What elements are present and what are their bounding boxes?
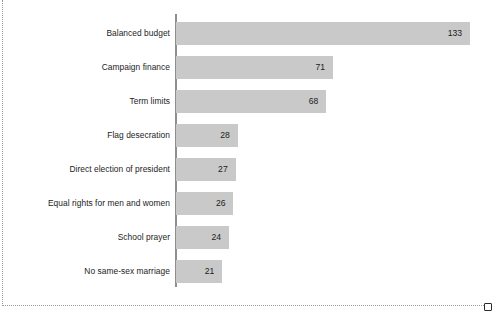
bar-row: School prayer24 xyxy=(0,226,497,249)
bar-container: 28 xyxy=(176,124,238,147)
bar-container: 133 xyxy=(176,22,470,45)
bar-container: 26 xyxy=(176,192,233,215)
bar-row: No same-sex marriage21 xyxy=(0,260,497,283)
category-label: Flag desecration xyxy=(0,124,170,147)
bar-container: 68 xyxy=(176,90,326,113)
bar[interactable] xyxy=(176,260,222,283)
bar-row: Balanced budget133 xyxy=(0,22,497,45)
bar-row: Term limits68 xyxy=(0,90,497,113)
category-label: Campaign finance xyxy=(0,56,170,79)
bar-value-label: 21 xyxy=(205,260,215,283)
category-label: School prayer xyxy=(0,226,170,249)
bar-row: Equal rights for men and women26 xyxy=(0,192,497,215)
bar-value-label: 68 xyxy=(309,90,319,113)
bar-row: Direct election of president27 xyxy=(0,158,497,181)
selection-border-bottom xyxy=(2,305,486,306)
category-label: Direct election of president xyxy=(0,158,170,181)
selection-border-left xyxy=(2,0,3,306)
bar-row: Campaign finance71 xyxy=(0,56,497,79)
bar-container: 24 xyxy=(176,226,229,249)
bar[interactable] xyxy=(176,226,229,249)
bar[interactable] xyxy=(176,90,326,113)
bar-value-label: 71 xyxy=(315,56,325,79)
bar-value-label: 133 xyxy=(448,22,462,45)
bar-value-label: 26 xyxy=(216,192,226,215)
bar[interactable] xyxy=(176,22,470,45)
bar[interactable] xyxy=(176,56,333,79)
bar-value-label: 28 xyxy=(220,124,230,147)
category-label: Term limits xyxy=(0,90,170,113)
bar-container: 71 xyxy=(176,56,333,79)
category-label: Balanced budget xyxy=(0,22,170,45)
category-label: Equal rights for men and women xyxy=(0,192,170,215)
bar-row: Flag desecration28 xyxy=(0,124,497,147)
bar-chart: Balanced budget133Campaign finance71Term… xyxy=(0,0,497,300)
chart-canvas: Balanced budget133Campaign finance71Term… xyxy=(0,0,497,317)
resize-handle-bottom-right-icon[interactable] xyxy=(484,303,492,311)
bar-value-label: 24 xyxy=(211,226,221,249)
bar-container: 27 xyxy=(176,158,236,181)
bar-value-label: 27 xyxy=(218,158,228,181)
category-label: No same-sex marriage xyxy=(0,260,170,283)
bar-container: 21 xyxy=(176,260,222,283)
